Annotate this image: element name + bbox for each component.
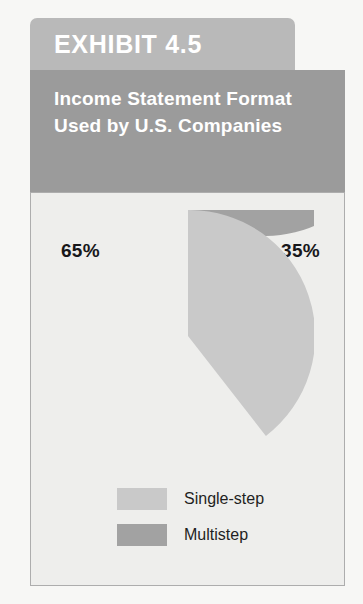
exhibit-title-box: Income Statement Format Used by U.S. Com… [30,70,345,192]
pie-chart [62,210,314,462]
legend-label-single-step: Single-step [184,491,264,507]
legend-swatch-multistep [117,524,167,546]
pie-slice-single-step [188,210,314,436]
exhibit-banner: EXHIBIT 4.5 [30,18,295,70]
legend-label-multistep: Multistep [184,527,248,543]
chart-panel: 65% 35% Single-step Multistep [30,192,345,586]
legend-item-multistep: Multistep [117,524,317,546]
exhibit-title: Income Statement Format Used by U.S. Com… [54,86,325,140]
exhibit-number-label: EXHIBIT 4.5 [30,32,202,57]
exhibit-figure: EXHIBIT 4.5 Income Statement Format Used… [0,0,363,604]
pie-chart-svg [62,210,314,462]
legend-item-single-step: Single-step [117,488,317,510]
legend-swatch-single-step [117,488,167,510]
chart-legend: Single-step Multistep [117,488,317,560]
